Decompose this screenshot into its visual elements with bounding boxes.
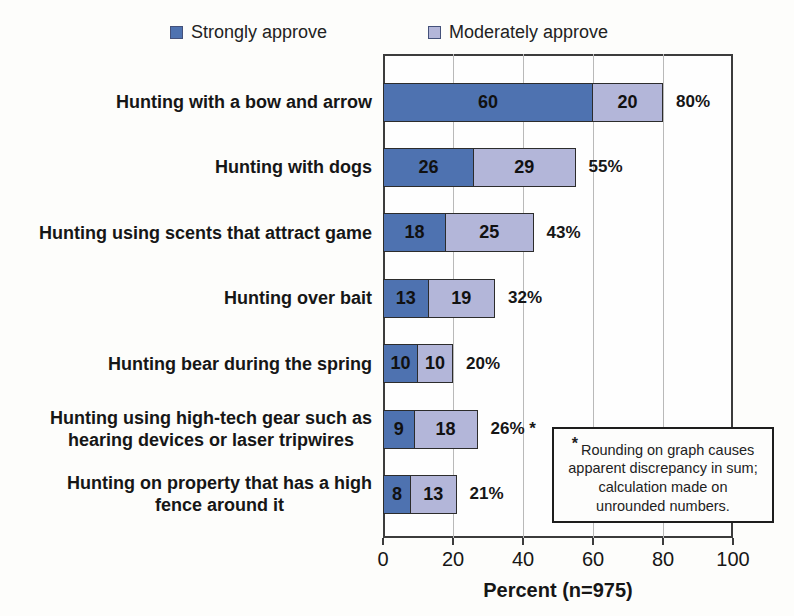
total-label: 55% — [589, 157, 623, 177]
total-label: 21% — [470, 484, 504, 504]
bar-segment-strongly-approve: 13 — [383, 279, 429, 318]
axis-tick — [452, 538, 454, 545]
axis-tick — [732, 538, 734, 545]
legend-label-strongly-approve: Strongly approve — [191, 22, 327, 43]
legend-label-moderately-approve: Moderately approve — [449, 22, 608, 43]
bar-segment-strongly-approve: 60 — [383, 83, 593, 122]
total-label: 32% — [508, 288, 542, 308]
axis-tick-label: 40 — [495, 548, 551, 571]
axis-tick-label: 100 — [705, 548, 761, 571]
bar-segment-moderately-approve: 29 — [473, 148, 576, 187]
category-label: Hunting bear during the spring — [108, 353, 372, 375]
legend-swatch-strongly-approve — [170, 26, 183, 39]
bar-segment-moderately-approve: 20 — [592, 83, 663, 122]
bar-segment-strongly-approve: 10 — [383, 344, 418, 383]
annotation-text-wrap: *Rounding on graph causes apparent discr… — [564, 434, 762, 517]
category-label: Hunting with dogs — [215, 156, 372, 178]
bar-segment-moderately-approve: 18 — [414, 410, 478, 449]
category-label: Hunting on property that has a high fenc… — [67, 472, 372, 516]
category-label: Hunting using scents that attract game — [39, 222, 372, 244]
axis-tick-label: 80 — [635, 548, 691, 571]
annotation-box: *Rounding on graph causes apparent discr… — [552, 427, 774, 523]
axis-tick — [592, 538, 594, 545]
axis-tick — [662, 538, 664, 545]
stacked-bar-chart: Strongly approve Moderately approve Hunt… — [0, 0, 794, 616]
bar-segment-strongly-approve: 18 — [383, 213, 446, 252]
category-label: Hunting over bait — [224, 287, 372, 309]
total-label: 43% — [547, 223, 581, 243]
bar-segment-strongly-approve: 8 — [383, 475, 411, 514]
annotation-text: Rounding on graph causes apparent discre… — [568, 441, 757, 514]
bar-segment-moderately-approve: 13 — [410, 475, 457, 514]
bar-segment-moderately-approve: 19 — [428, 279, 496, 318]
category-label: Hunting with a bow and arrow — [116, 91, 372, 113]
x-axis-label: Percent (n=975) — [383, 579, 733, 602]
category-label: Hunting using high-tech gear such as hea… — [50, 407, 372, 451]
bar-segment-strongly-approve: 26 — [383, 148, 474, 187]
axis-tick-label: 0 — [355, 548, 411, 571]
bar-segment-moderately-approve: 10 — [417, 344, 453, 383]
annotation-asterisk: * — [572, 435, 578, 452]
legend-swatch-moderately-approve — [428, 26, 441, 39]
axis-tick-label: 60 — [565, 548, 621, 571]
legend-item-moderately-approve: Moderately approve — [428, 22, 608, 43]
axis-tick — [382, 538, 384, 545]
total-label: 20% — [466, 354, 500, 374]
axis-tick — [522, 538, 524, 545]
total-label: 80% — [676, 92, 710, 112]
legend-item-strongly-approve: Strongly approve — [170, 22, 327, 43]
total-label: 26% * — [491, 419, 536, 439]
bar-segment-moderately-approve: 25 — [445, 213, 534, 252]
bar-segment-strongly-approve: 9 — [383, 410, 415, 449]
axis-tick-label: 20 — [425, 548, 481, 571]
